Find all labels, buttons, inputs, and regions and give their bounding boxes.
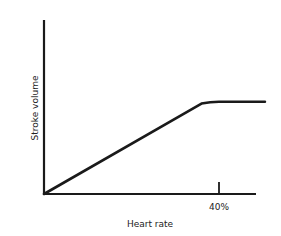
x-axis-label: Heart rate — [127, 219, 173, 229]
x-tick-label: 40% — [209, 202, 229, 212]
y-axis-label: Stroke volume — [30, 76, 40, 141]
chart-canvas — [0, 0, 281, 236]
stroke-volume-line — [44, 102, 265, 194]
